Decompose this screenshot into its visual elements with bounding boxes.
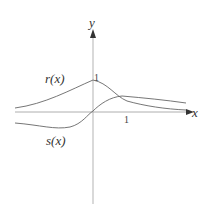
x-axis-label: x [191,105,198,120]
y-axis-label: y [87,15,95,30]
r-curve [15,80,186,110]
r-curve-label: r(x) [45,71,65,86]
y-axis-arrow-icon [90,29,96,38]
graph-canvas: y x r(x) s(x) 1 1 [0,0,207,216]
y-tick-1: 1 [94,72,99,83]
s-curve-label: s(x) [46,133,66,148]
x-tick-1: 1 [124,114,129,125]
